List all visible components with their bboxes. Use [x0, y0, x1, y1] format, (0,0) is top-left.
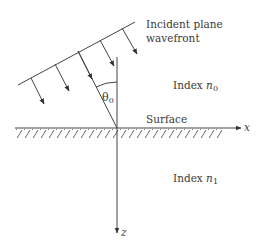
refraction-diagram: θ0 Incident plane wavefront Index n0 Sur…: [0, 0, 263, 248]
surface-hatching: [15, 129, 222, 138]
angle-label: θ0: [102, 91, 114, 105]
wavefront-label-line2: wavefront: [146, 32, 200, 44]
index-n0-label: Index n0: [173, 79, 218, 93]
propagation-arrow-1: [31, 78, 44, 104]
propagation-arrow-4: [122, 28, 137, 54]
index-n1-label: Index n1: [173, 172, 218, 186]
surface-label: Surface: [146, 113, 187, 125]
incident-ray-arrowhead: [78, 51, 92, 79]
z-axis-label: z: [120, 226, 127, 238]
angle-arc: [96, 82, 117, 87]
propagation-arrow-2: [55, 64, 69, 91]
propagation-arrow-3: [100, 40, 114, 66]
x-axis-label: x: [244, 121, 250, 133]
wavefront-label-line1: Incident plane: [146, 18, 223, 30]
